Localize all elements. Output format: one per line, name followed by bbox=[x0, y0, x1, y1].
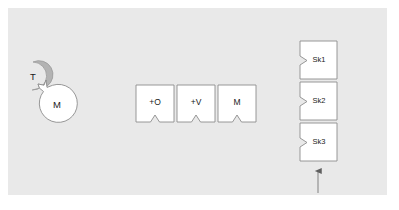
operator-block-label: +O bbox=[149, 97, 161, 107]
operator-block-label: +V bbox=[191, 97, 202, 107]
operator-block[interactable]: +O bbox=[136, 85, 174, 122]
diagram-canvas: T M +O +V M Sk1 bbox=[0, 0, 399, 210]
skill-block-label: Sk1 bbox=[313, 55, 326, 64]
skill-block-label: Sk3 bbox=[313, 137, 326, 146]
skill-block[interactable]: Sk3 bbox=[300, 123, 337, 161]
operator-blocks: +O +V M bbox=[136, 85, 256, 122]
operator-block[interactable]: M bbox=[218, 85, 256, 122]
operator-block-label: M bbox=[233, 97, 240, 107]
operator-block[interactable]: +V bbox=[177, 85, 215, 122]
tool-node-label: T bbox=[30, 71, 36, 82]
skill-stack: Sk1 Sk2 Sk3 bbox=[300, 41, 337, 161]
agent-pair: T M bbox=[30, 61, 77, 123]
skill-block[interactable]: Sk2 bbox=[300, 82, 337, 120]
skill-block-label: Sk2 bbox=[313, 96, 326, 105]
diagram-figure: T M +O +V M Sk1 bbox=[0, 0, 399, 210]
skill-block[interactable]: Sk1 bbox=[300, 41, 337, 79]
model-node-label: M bbox=[53, 99, 61, 110]
